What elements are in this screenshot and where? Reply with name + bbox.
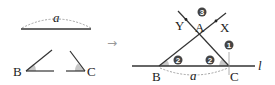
vertex-label-C: C (230, 69, 239, 84)
given-segment: a (21, 10, 91, 29)
arrow-icon: → (107, 36, 117, 50)
given-angle-B: B (13, 50, 54, 79)
svg-text:2: 2 (208, 56, 213, 65)
step-badge-2-C: 2 (206, 56, 215, 66)
base-label-a: a (190, 68, 197, 83)
step-badge-2-B: 2 (174, 56, 183, 66)
svg-text:3: 3 (200, 8, 205, 17)
angle-label-C: C (87, 64, 96, 79)
segment-label-a: a (53, 10, 60, 25)
svg-text:1: 1 (227, 41, 232, 50)
vertex-label-A: A (195, 20, 205, 35)
angle-label-B: B (13, 64, 22, 79)
given-angle-C: C (66, 51, 96, 79)
step-badge-1: 1 (225, 41, 234, 51)
line-label-l: l (258, 58, 262, 73)
point-label-X: X (220, 20, 230, 35)
constructed-triangle: A B C X Y l a 3 1 2 2 (132, 8, 262, 85)
svg-text:2: 2 (176, 56, 181, 65)
step-badge-3: 3 (198, 8, 207, 18)
point-label-Y: Y (175, 18, 185, 33)
vertex-label-B: B (152, 69, 161, 84)
construction-diagram: a B C → A B C X Y l (0, 0, 275, 84)
